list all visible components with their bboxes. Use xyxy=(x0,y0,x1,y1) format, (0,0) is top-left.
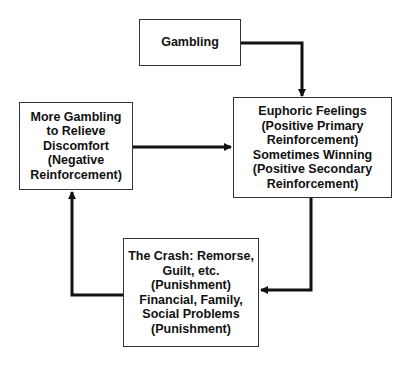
node-euphoric-line: Euphoric Feelings xyxy=(258,104,366,119)
node-more-gambling-line: Reinforcement) xyxy=(30,168,122,183)
node-more-gambling: More Gambling to Relieve Discomfort (Neg… xyxy=(19,102,133,190)
node-crash-line: Social Problems xyxy=(142,307,239,322)
node-more-gambling-line: to Relieve xyxy=(46,124,105,139)
node-euphoric-line: Reinforcement) xyxy=(267,133,359,148)
node-more-gambling-line: (Negative xyxy=(48,153,104,168)
edge-euphoric-to-crash xyxy=(261,198,311,290)
node-gambling: Gambling xyxy=(139,19,241,66)
node-euphoric-line: Reinforcement) xyxy=(267,177,359,192)
node-euphoric-line: Sometimes Winning xyxy=(253,148,372,163)
edge-crash-to-more-gambling xyxy=(72,192,123,295)
node-the-crash: The Crash: Remorse, Guilt, etc. (Punishm… xyxy=(123,238,259,347)
node-more-gambling-line: Discomfort xyxy=(43,139,109,154)
edge-gambling-to-euphoric xyxy=(241,43,302,96)
node-euphoric-line: (Positive Secondary xyxy=(253,162,373,177)
node-crash-line: Financial, Family, xyxy=(139,293,242,308)
node-euphoric-line: (Positive Primary xyxy=(261,119,363,134)
node-crash-line: (Punishment) xyxy=(151,278,231,293)
node-crash-line: Guilt, etc. xyxy=(163,264,220,279)
node-crash-line: The Crash: Remorse, xyxy=(128,249,254,264)
node-more-gambling-line: More Gambling xyxy=(31,110,122,125)
node-euphoric-feelings: Euphoric Feelings (Positive Primary Rein… xyxy=(233,97,392,198)
node-crash-line: (Punishment) xyxy=(151,322,231,337)
node-gambling-line: Gambling xyxy=(161,35,219,50)
